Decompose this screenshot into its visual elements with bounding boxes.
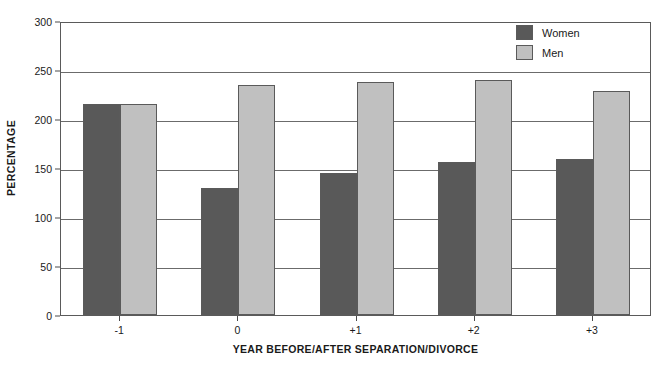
x-axis-tick-mark [237,316,238,321]
legend-item-women: Women [516,25,626,40]
x-axis-title-label: YEAR BEFORE/AFTER SEPARATION/DIVORCE [60,343,651,355]
bars-layer [61,23,650,315]
y-axis-ticks: 050100150200250300 [22,22,60,316]
x-axis-tick-label: -1 [114,324,123,336]
bar-women-+3 [556,159,593,315]
y-axis-tick-label: 150 [34,163,52,175]
x-axis-tick-label: +1 [350,324,362,336]
legend-item-label: Women [542,27,580,39]
x-axis-tick-mark [119,316,120,321]
x-axis-tick-mark [356,316,357,321]
bar-men--1 [120,104,157,315]
bar-men-+2 [475,80,512,315]
y-axis-tick-label: 250 [34,65,52,77]
x-axis-tick-label: +2 [468,324,480,336]
x-axis-tick-label: 0 [234,324,240,336]
legend-item-men: Men [516,45,626,60]
bar-men-+1 [357,82,394,315]
bar-women-+1 [320,173,357,315]
x-axis: YEAR BEFORE/AFTER SEPARATION/DIVORCE -10… [60,316,651,365]
bar-women-0 [201,188,238,315]
y-axis-title-label: PERCENTAGE [5,120,17,196]
plot-area [60,22,651,316]
bar-men-+3 [593,91,630,315]
y-axis-tick-label: 0 [46,310,52,322]
bar-women--1 [83,104,120,315]
legend-item-label: Men [542,47,563,59]
x-axis-tick-label: +3 [586,324,598,336]
y-axis-tick-label: 50 [40,261,52,273]
y-axis-title: PERCENTAGE [0,0,22,316]
y-axis-tick-label: 200 [34,114,52,126]
bar-men-0 [238,85,275,315]
x-axis-tick-mark [592,316,593,321]
bar-women-+2 [438,162,475,315]
dark-gray-swatch [516,25,533,40]
y-axis-tick-label: 300 [34,16,52,28]
light-gray-swatch [516,45,533,60]
y-axis-tick-label: 100 [34,212,52,224]
x-axis-tick-mark [474,316,475,321]
chart-legend: WomenMen [516,25,626,65]
bar-chart: PERCENTAGE 050100150200250300 YEAR BEFOR… [0,0,659,365]
